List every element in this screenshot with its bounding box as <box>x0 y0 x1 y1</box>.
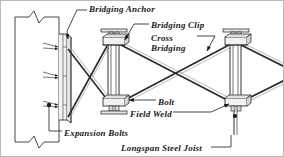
detail-drawing <box>1 1 284 157</box>
label-longspan-steel-joist: Longspan Steel Joist <box>121 143 202 153</box>
leader-lines <box>47 10 231 147</box>
concrete-wall <box>15 11 59 148</box>
expansion-bolt-arrows <box>43 43 58 107</box>
label-cross-bridging-line1: Cross <box>151 33 173 43</box>
cross-bridging <box>68 42 284 118</box>
label-cross-bridging-line2: Bridging <box>151 43 186 53</box>
label-expansion-bolts: Expansion Bolts <box>64 128 128 138</box>
label-field-weld: Field Weld <box>130 109 172 119</box>
joist-right <box>223 29 251 135</box>
bridging-anchor-plate <box>59 34 71 123</box>
label-bridging-anchor: Bridging Anchor <box>89 4 155 14</box>
label-bridging-clip: Bridging Clip <box>151 20 204 30</box>
diagram-canvas: Bridging Anchor Bridging Clip Cross Brid… <box>0 0 284 157</box>
joist-left <box>101 29 129 114</box>
label-bolt: Bolt <box>158 97 174 107</box>
